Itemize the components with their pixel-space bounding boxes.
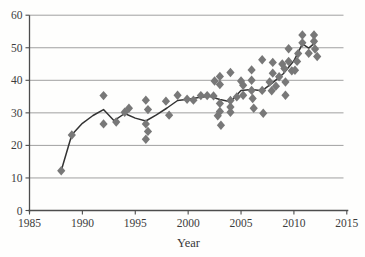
data-point-marker [250,104,258,113]
data-point-marker [249,94,257,103]
data-point-marker [258,86,266,95]
data-point-marker [281,77,289,86]
y-tick-label: 20 [11,139,23,151]
x-tick-label: 1990 [71,217,94,229]
y-tick-label: 50 [11,42,23,54]
data-point-marker [173,91,181,100]
x-tick-label: 2015 [335,217,358,229]
data-point-marker [57,166,65,175]
y-tick-label: 60 [11,9,23,21]
data-point-marker [99,91,107,100]
data-point-marker [293,57,301,66]
data-point-marker [144,127,152,136]
scatter-chart: 0102030405060198519901995200020052010201… [0,0,365,257]
trend-line [61,42,316,171]
y-tick-label: 30 [11,107,23,119]
y-tick-label: 0 [17,205,23,217]
data-point-marker [313,52,321,61]
x-tick-label: 2010 [282,217,305,229]
data-point-marker [265,77,273,86]
data-point-marker [217,121,225,130]
data-point-marker [259,108,267,117]
data-point-marker [248,76,256,85]
data-point-marker [189,95,197,104]
data-point-marker [258,55,266,64]
data-point-marker [305,49,313,58]
data-point-marker [99,119,107,128]
data-point-marker [209,91,217,100]
data-point-marker [142,95,150,104]
data-point-marker [248,65,256,74]
data-point-marker [226,68,234,77]
data-point-marker [165,110,173,119]
data-point-marker [281,91,289,100]
data-point-marker [269,58,277,67]
data-point-marker [183,94,191,103]
x-tick-label: 1995 [124,217,147,229]
data-point-marker [142,135,150,144]
data-point-marker [162,96,170,105]
data-point-marker [310,37,318,46]
data-point-marker [285,44,293,53]
x-axis-title: Year [30,236,347,251]
x-tick-label: 2000 [177,217,200,229]
x-tick-label: 2005 [230,217,253,229]
y-tick-label: 40 [11,74,23,86]
data-point-marker [226,107,234,116]
y-tick-label: 10 [11,172,23,184]
data-point-marker [112,117,120,126]
figure: 0102030405060198519901995200020052010201… [0,0,365,257]
data-point-marker [248,86,256,95]
x-tick-label: 1985 [18,217,41,229]
